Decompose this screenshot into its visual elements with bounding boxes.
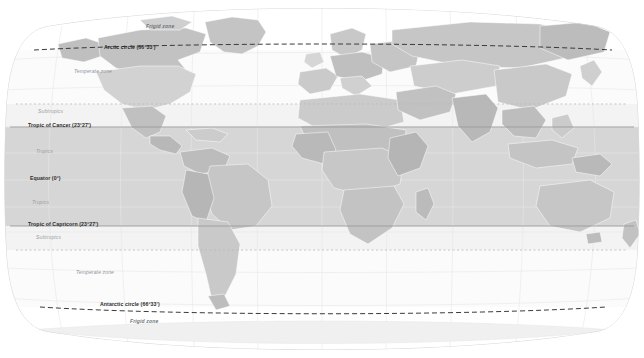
label-subtropics-north: Subtropics <box>38 108 63 114</box>
label-temperate-zone-south: Temperate zone <box>76 269 114 275</box>
globe-body <box>0 0 644 358</box>
label-tropic-of-cancer: Tropic of Cancer (23°27') <box>28 122 91 128</box>
label-frigid-zone-north: Frigid zone <box>146 23 174 29</box>
label-equator: Equator (0°) <box>30 175 61 181</box>
world-climate-zone-map: Arctic circle (66°33') Tropic of Cancer … <box>0 0 644 358</box>
label-tropics-south: Tropics <box>32 199 49 205</box>
label-arctic-circle: Arctic circle (66°33') <box>104 44 156 50</box>
label-subtropics-south: Subtropics <box>36 234 61 240</box>
label-frigid-zone-south: Frigid zone <box>130 318 158 324</box>
map-canvas <box>0 0 644 358</box>
label-antarctic-circle: Antarctic circle (66°33') <box>100 301 160 307</box>
label-temperate-zone-north: Temperate zone <box>74 68 112 74</box>
land-tasmania <box>586 232 602 244</box>
label-tropics-north: Tropics <box>36 148 53 154</box>
label-tropic-of-capricorn: Tropic of Capricorn (23°27') <box>28 221 98 227</box>
